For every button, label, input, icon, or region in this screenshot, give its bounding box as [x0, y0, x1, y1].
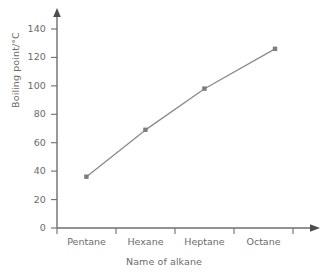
data-point-heptane	[202, 86, 206, 90]
y-axis-title: Boiling point/°C	[10, 32, 21, 108]
data-line-boiling-point	[87, 49, 276, 177]
data-point-octane	[273, 47, 277, 51]
y-tick-label-20: 20	[16, 195, 46, 205]
y-tick-label-0: 0	[16, 223, 46, 233]
chart-container: 0 20 40 60 80 100 120 140 Pentane Hexane…	[0, 0, 328, 275]
data-point-markers	[84, 47, 277, 179]
x-tick-label-hexane: Hexane	[116, 236, 175, 247]
y-axis-title-wrapper: Boiling point/°C	[4, 10, 18, 130]
x-axis-ticks	[57, 228, 293, 234]
x-tick-label-pentane: Pentane	[57, 236, 116, 247]
y-tick-label-60: 60	[16, 138, 46, 148]
chart-plot-area	[0, 0, 328, 275]
x-tick-label-heptane: Heptane	[175, 236, 234, 247]
data-point-pentane	[84, 175, 88, 179]
data-point-hexane	[143, 128, 147, 132]
y-tick-label-40: 40	[16, 166, 46, 176]
x-axis-title: Name of alkane	[0, 256, 328, 267]
y-tick-label-80: 80	[16, 109, 46, 119]
y-axis-arrow-icon	[53, 8, 61, 17]
x-tick-label-octane: Octane	[234, 236, 293, 247]
x-axis-arrow-icon	[310, 224, 320, 232]
y-axis-ticks	[51, 29, 57, 228]
